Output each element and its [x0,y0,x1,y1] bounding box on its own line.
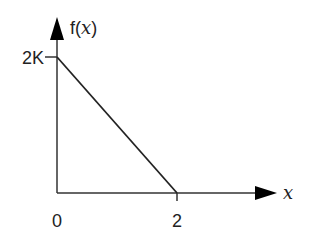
y-axis-arrow-icon [50,17,64,40]
y-tick-label: 2K [22,48,44,68]
x-axis-label: x [283,182,293,203]
x-axis-arrow-icon [255,186,277,200]
chart: f(x) x 022K [0,0,316,248]
y-axis-label: f(x) [70,17,97,38]
x-tick-label: 0 [52,211,62,231]
x-tick-label: 2 [172,211,182,231]
series-line [57,57,177,193]
